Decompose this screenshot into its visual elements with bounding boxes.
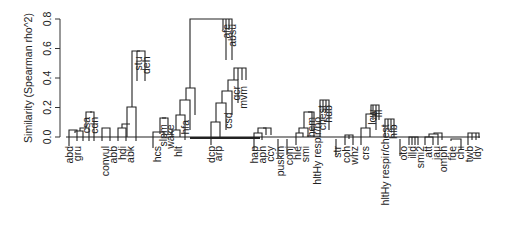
branch-twb-ldy	[468, 133, 479, 145]
dendrogram-svg: 0.0 0.2 0.4 0.6 0.8 Similarity (Spearman…	[0, 0, 508, 229]
leaf-label: hdb	[322, 105, 334, 123]
y-tick-label: 0.4	[41, 71, 53, 86]
leaf-labels: abdgrucsacdnconvulabbhdiabkstudehhcsslpm…	[63, 24, 483, 206]
y-tick-label: 0.2	[41, 100, 53, 115]
branch	[69, 130, 77, 146]
leaf-label: hcs	[151, 146, 163, 162]
leaf-label: lfl	[372, 110, 384, 118]
branch-illd-smi2	[409, 137, 418, 145]
branch-hdi	[118, 128, 126, 141]
leaf-label: hfb	[387, 124, 399, 139]
leaf-label: gru	[71, 146, 83, 161]
branch	[412, 137, 415, 145]
branch-ccy	[263, 128, 271, 135]
dendrogram-chart: 0.0 0.2 0.4 0.6 0.8 Similarity (Spearman…	[0, 0, 508, 229]
y-axis-title: Similarity (Spearman rho^2)	[22, 13, 34, 143]
branch	[238, 68, 242, 80]
leaf-label: hlt	[172, 146, 184, 157]
leaf-label: crs	[359, 146, 371, 160]
leaf-label: hfa	[179, 120, 191, 135]
y-axis: 0.0 0.2 0.4 0.6 0.8 Similarity (Spearman…	[22, 12, 60, 145]
leaf-label: deh	[140, 56, 152, 74]
branch-qcr-mvm	[234, 68, 246, 80]
leaf-label: csd	[222, 112, 234, 129]
y-tick-label: 0.8	[41, 12, 53, 27]
leaf-label: mvm	[237, 86, 249, 109]
leaf-label: arp	[212, 146, 224, 161]
y-tick-label: 0.0	[41, 130, 53, 145]
branch-convul-abb	[102, 128, 110, 141]
leaf-label: absu	[226, 24, 238, 47]
leaf-label: abk	[124, 145, 136, 163]
branch	[122, 124, 130, 128]
leaf-label: wake	[164, 124, 176, 150]
branch-att	[425, 137, 433, 145]
branch-dcp-arp	[211, 122, 220, 145]
dendrogram-branches	[66, 19, 480, 158]
leaf-label: smi	[299, 146, 311, 162]
branch-hle	[296, 133, 303, 145]
y-tick-label: 0.6	[41, 41, 53, 56]
leaf-label: cdn	[88, 117, 100, 134]
leaf-label: ldy	[471, 145, 483, 159]
